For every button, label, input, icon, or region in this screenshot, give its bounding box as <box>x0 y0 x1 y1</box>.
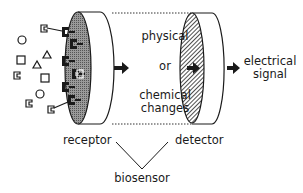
label-or: or <box>133 60 197 73</box>
label-signal: signal <box>240 68 300 81</box>
analytes <box>14 25 68 113</box>
arrow-right-icon <box>227 62 240 74</box>
analyte-square-icon <box>17 56 25 64</box>
label-changes: changes <box>133 102 197 115</box>
biosensor-bracket <box>116 142 168 169</box>
analyte-circle-icon <box>18 36 26 44</box>
arrow-right-icon <box>114 62 129 74</box>
label-biosensor: biosensor <box>110 172 174 185</box>
label-detector: detector <box>175 134 224 147</box>
receptor-cylinder <box>62 12 114 124</box>
label-physical: physical <box>133 30 197 43</box>
analyte-circle-icon <box>36 90 44 98</box>
analyte-square-icon <box>41 74 49 82</box>
analyte-triangle-icon <box>43 51 51 58</box>
analyte-notched-icon <box>14 72 20 79</box>
analyte-notched-icon <box>26 100 32 107</box>
biosensor-diagram: physical or chemical changes electrical … <box>0 0 303 193</box>
analyte-notched-icon <box>41 25 47 32</box>
analyte-triangle-icon <box>33 61 41 68</box>
label-receptor: receptor <box>63 134 112 147</box>
analyte-notched-icon <box>48 106 54 113</box>
